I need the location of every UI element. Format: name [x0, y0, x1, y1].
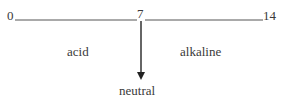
- acid-region-label: acid: [67, 45, 89, 58]
- scale-mid-label: 7: [137, 7, 144, 20]
- scale-min-label: 0: [7, 9, 14, 22]
- neutral-label: neutral: [119, 84, 155, 96]
- arrow-down-icon: [137, 72, 145, 80]
- scale-max-label: 14: [263, 9, 276, 22]
- alkaline-region-label: alkaline: [180, 45, 221, 58]
